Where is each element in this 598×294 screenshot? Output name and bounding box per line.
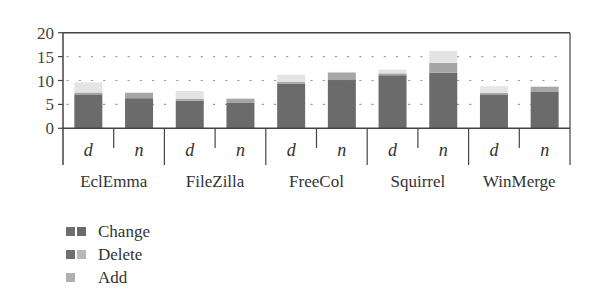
y-tick-label: 20: [37, 24, 54, 43]
change-swatch-icon: [66, 227, 96, 236]
bar-segment-change: [176, 101, 204, 129]
x-group-label: WinMerge: [483, 172, 556, 191]
delete-swatch-icon: [66, 250, 96, 259]
bar-segment-change: [125, 98, 153, 128]
bar-segment-change: [379, 75, 407, 128]
x-axis-labels: dnEclEmmadnFileZilladnFreeColdnSquirreld…: [80, 140, 555, 191]
x-group-label: Squirrel: [391, 172, 446, 191]
x-group-label: FreeCol: [289, 172, 344, 191]
bar-segment-change: [480, 94, 508, 128]
x-subcategory-label: d: [388, 140, 398, 160]
bar-segment-delete: [176, 99, 204, 101]
bar-segment-change: [429, 73, 457, 128]
bar-segment-delete: [480, 93, 508, 94]
bar-segment-change: [328, 80, 356, 128]
y-tick-label: 0: [46, 119, 55, 138]
bar-segment-add: [379, 70, 407, 74]
x-subcategory-label: n: [236, 140, 245, 160]
bar-segment-delete: [328, 72, 356, 80]
bar-segment-delete: [429, 63, 457, 73]
bar-segment-delete: [379, 73, 407, 75]
x-subcategory-label: d: [185, 140, 195, 160]
bar-segment-change: [531, 92, 559, 128]
legend-label: Add: [98, 268, 127, 288]
bar-segment-change: [277, 84, 305, 128]
y-tick-label: 5: [46, 95, 55, 114]
y-tick-label: 10: [37, 72, 54, 91]
y-axis-ticks: 05101520: [37, 24, 63, 139]
legend-label: Change: [98, 222, 150, 242]
x-subcategory-label: n: [540, 140, 549, 160]
legend-item-delete: Delete: [66, 243, 150, 266]
bar-segment-add: [429, 51, 457, 63]
bar-segment-add: [480, 86, 508, 93]
bar-segment-add: [125, 92, 153, 93]
x-subcategory-label: d: [84, 140, 94, 160]
bar-segment-delete: [277, 82, 305, 84]
bar-segment-delete: [226, 99, 254, 103]
bar-segment-add: [277, 75, 305, 82]
x-subcategory-label: n: [135, 140, 144, 160]
bars: [74, 51, 558, 128]
bar-segment-add: [176, 91, 204, 99]
x-subcategory-label: n: [337, 140, 346, 160]
x-subcategory-label: d: [287, 140, 297, 160]
legend-item-add: Add: [66, 266, 150, 289]
legend-item-change: Change: [66, 220, 150, 243]
bar-segment-delete: [74, 92, 102, 94]
x-subcategory-label: d: [489, 140, 499, 160]
bar-segment-change: [74, 94, 102, 128]
legend: Change Delete Add: [66, 220, 150, 289]
add-swatch-icon: [66, 273, 96, 282]
bar-segment-delete: [125, 93, 153, 98]
bar-segment-add: [74, 82, 102, 92]
y-tick-label: 15: [37, 48, 54, 67]
bar-segment-change: [226, 103, 254, 128]
stacked-bar-chart: 05101520 dnEclEmmadnFileZilladnFreeColdn…: [0, 0, 598, 215]
x-subcategory-label: n: [439, 140, 448, 160]
legend-label: Delete: [98, 245, 142, 265]
bar-segment-delete: [531, 87, 559, 92]
x-group-label: FileZilla: [186, 172, 245, 191]
x-group-label: EclEmma: [80, 172, 147, 191]
